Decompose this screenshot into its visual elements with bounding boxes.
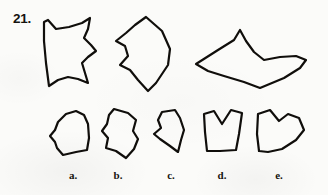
answer-choice-e-outline [257, 110, 304, 152]
answer-choice-a-label[interactable]: a. [62, 169, 84, 181]
prompt-shape-bird-wing-outline [196, 30, 306, 88]
answer-choice-b-label[interactable]: b. [107, 169, 129, 181]
prompt-shape-quadrilateral-scalloped-outline [44, 18, 96, 86]
worksheet-page: 21. a.b.c.d.e. [0, 0, 328, 195]
answer-choice-d-label[interactable]: d. [211, 169, 233, 181]
answer-choice-e-label[interactable]: e. [268, 169, 290, 181]
answer-choice-c-outline [154, 110, 184, 152]
prompt-shape-kite-concave-left [108, 13, 180, 93]
answer-choice-e[interactable] [252, 104, 310, 160]
answer-choice-b-outline [102, 109, 138, 158]
answer-choice-a[interactable] [46, 106, 98, 162]
answer-choice-c-label[interactable]: c. [160, 169, 182, 181]
question-number: 21. [13, 11, 31, 26]
answer-choice-b[interactable] [94, 104, 148, 162]
answer-choice-d-outline [204, 110, 242, 151]
prompt-shape-kite-concave-left-outline [116, 17, 170, 91]
answer-choice-c[interactable] [148, 106, 194, 162]
answer-choice-d[interactable] [198, 106, 248, 160]
prompt-shape-bird-wing [188, 24, 320, 90]
prompt-shape-quadrilateral-scalloped [38, 13, 106, 93]
answer-choice-a-outline [50, 111, 89, 155]
